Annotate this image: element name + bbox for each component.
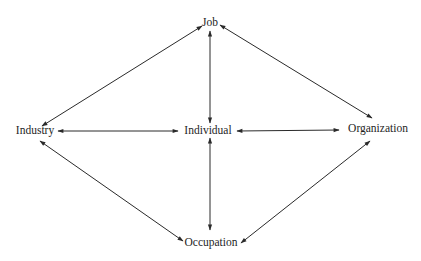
edge-individual-organization bbox=[237, 130, 339, 131]
node-industry: Industry bbox=[16, 125, 54, 137]
node-organization: Organization bbox=[348, 123, 408, 135]
diagram-canvas: Job Industry Individual Organization Occ… bbox=[0, 0, 421, 261]
edge-industry-occupation bbox=[40, 141, 183, 241]
node-individual: Individual bbox=[184, 125, 231, 137]
edge-industry-job bbox=[42, 26, 202, 126]
edge-job-organization bbox=[220, 25, 372, 118]
node-occupation: Occupation bbox=[184, 237, 237, 249]
edge-occupation-organization bbox=[241, 141, 370, 243]
node-job: Job bbox=[202, 17, 218, 29]
